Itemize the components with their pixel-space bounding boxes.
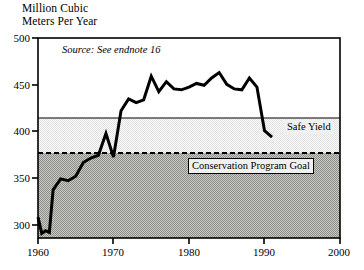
chart-figure: Million Cubic Meters Per Year 500 450 40…	[0, 0, 364, 270]
plot-area	[0, 0, 364, 270]
safe-yield-label: Safe Yield	[284, 120, 334, 134]
source-note: Source: See endnote 16	[62, 44, 160, 55]
conservation-goal-label: Conservation Program Goal	[188, 158, 314, 174]
